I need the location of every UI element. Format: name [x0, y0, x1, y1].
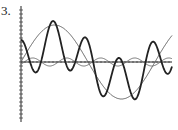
plot-area — [0, 0, 178, 130]
bold-fast-curve — [21, 21, 172, 99]
